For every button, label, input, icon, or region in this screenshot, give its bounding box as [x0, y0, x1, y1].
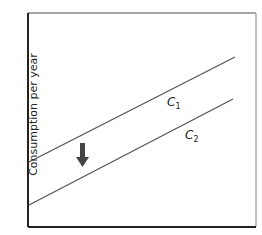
plot-area	[28, 13, 256, 227]
y-axis-label: Consumption per year	[27, 50, 40, 180]
label-c2: C2	[185, 128, 198, 144]
label-c1: C1	[167, 95, 180, 111]
